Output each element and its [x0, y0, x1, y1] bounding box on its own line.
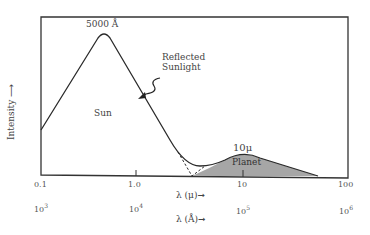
- x-tick-label-3: 100: [338, 181, 353, 189]
- exp-base: 10: [34, 205, 44, 214]
- y-axis-label: Intensity ⟶: [6, 84, 16, 140]
- x-axis-angstrom-text: λ (Å): [176, 214, 198, 224]
- exp-base: 10: [339, 207, 349, 216]
- exp-base: 10: [236, 207, 246, 216]
- x-tick-label-1: 1.0: [128, 181, 141, 189]
- sun-label: Sun: [94, 109, 112, 118]
- x-axis-micron-text: λ (μ): [176, 190, 197, 200]
- exp-value: 3: [44, 202, 48, 209]
- x-axis-arrow-icon: ➞: [198, 214, 206, 224]
- y-axis-text: Intensity: [6, 100, 16, 140]
- x-tick-label-2: 10: [237, 181, 247, 189]
- x-tick-label-0: 0.1: [34, 181, 47, 189]
- reflected-label-line1: Reflected: [162, 53, 205, 62]
- x-secondary-tick-1: 104: [129, 203, 143, 214]
- x-secondary-tick-3: 106: [339, 205, 353, 216]
- planet-label: Planet: [232, 158, 261, 167]
- x-axis-label-micron: λ (μ)➞: [176, 191, 205, 200]
- x-secondary-tick-2: 105: [236, 205, 250, 216]
- sun-peak-label: 5000 Å: [86, 20, 118, 29]
- exp-value: 5: [246, 204, 250, 211]
- planet-peak-label: 10μ: [233, 143, 252, 153]
- exp-base: 10: [129, 205, 139, 214]
- y-axis-arrow-icon: ⟶: [6, 84, 16, 97]
- plot-frame: [41, 17, 348, 178]
- exp-value: 6: [349, 204, 353, 211]
- exp-value: 4: [139, 202, 143, 209]
- x-axis-arrow-icon: ➞: [197, 190, 205, 200]
- x-secondary-tick-0: 103: [34, 203, 48, 214]
- reflected-label-line2: Sunlight: [162, 63, 201, 72]
- x-axis-label-angstrom: λ (Å)➞: [176, 215, 206, 224]
